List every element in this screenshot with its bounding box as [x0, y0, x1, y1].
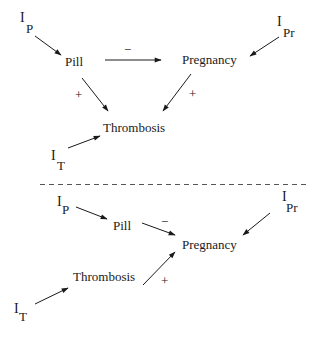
bottom-edge-thrombosis-pregnancy — [143, 252, 175, 285]
bottom-edge-it-thrombosis — [35, 288, 68, 304]
bottom-node-pregnancy: Pregnancy — [182, 237, 237, 252]
top-i-p-sub: P — [26, 21, 33, 36]
bottom-diagram: I P Pill − Pregnancy I Pr Thrombosis + I… — [14, 189, 298, 324]
top-node-pregnancy: Pregnancy — [182, 52, 237, 67]
bottom-edge-ip-pill — [76, 207, 107, 219]
top-edge-it-thrombosis — [68, 136, 100, 148]
top-diagram: I P Pill − Pregnancy I Pr + + Thrombosis… — [20, 10, 295, 173]
top-i-t-base: I — [51, 148, 56, 163]
bottom-i-pr-sub: Pr — [286, 200, 298, 215]
top-i-t-sub: T — [57, 158, 65, 173]
bottom-node-i-pr: I Pr — [282, 189, 298, 215]
bottom-node-i-t: I T — [14, 301, 27, 324]
top-edge-ip-pill — [35, 36, 61, 55]
causal-diagram: I P Pill − Pregnancy I Pr + + Thrombosis… — [0, 0, 322, 338]
top-i-p-base: I — [20, 10, 25, 25]
top-i-pr-sub: Pr — [283, 25, 295, 40]
bottom-node-i-p: I P — [57, 194, 69, 217]
bottom-sign-thrombosis-pregnancy: + — [161, 273, 168, 288]
top-i-pr-base: I — [277, 14, 282, 29]
top-edge-pill-thrombosis — [82, 78, 108, 111]
bottom-i-p-sub: P — [62, 202, 69, 217]
top-node-i-t: I T — [51, 148, 65, 173]
top-node-i-pr: I Pr — [277, 14, 295, 40]
top-edge-pregnancy-thrombosis — [163, 74, 191, 111]
bottom-sign-pill-pregnancy: − — [161, 214, 168, 229]
bottom-node-pill: Pill — [113, 218, 131, 233]
bottom-node-thrombosis: Thrombosis — [73, 269, 135, 284]
top-sign-pregnancy-thrombosis: + — [189, 86, 196, 101]
top-node-i-p: I P — [20, 10, 33, 36]
bottom-i-t-sub: T — [19, 309, 27, 324]
top-edge-ipr-pregnancy — [250, 37, 279, 56]
top-sign-pill-pregnancy: − — [124, 42, 131, 57]
bottom-edge-ipr-pregnancy — [243, 213, 270, 235]
top-sign-pill-thrombosis: + — [75, 87, 82, 102]
top-node-pill: Pill — [65, 54, 83, 69]
bottom-edge-pill-pregnancy — [142, 223, 175, 235]
top-node-thrombosis: Thrombosis — [103, 120, 165, 135]
